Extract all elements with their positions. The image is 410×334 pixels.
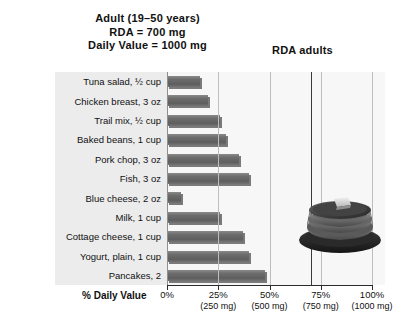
pancakes-photo-svg — [296, 186, 384, 256]
rda-adults-label: RDA adults — [272, 44, 333, 56]
category-label: Yogurt, plain, 1 cup — [55, 247, 161, 266]
category-label: Fish, 3 oz — [55, 169, 161, 188]
pancakes-photo — [296, 186, 384, 256]
bar — [167, 270, 265, 281]
bar — [167, 231, 243, 242]
bar — [167, 95, 208, 106]
category-label: Trail mix, ½ cup — [55, 111, 161, 130]
x-tick-mg: (1000 mg) — [342, 301, 402, 313]
title-line-age: Adult (19–50 years) — [40, 12, 255, 26]
category-label: Chicken breast, 3 oz — [55, 91, 161, 110]
x-tick-percent: 0% — [160, 289, 174, 300]
category-label: Baked beans, 1 cup — [55, 130, 161, 149]
table-row: Trail mix, ½ cup — [55, 111, 385, 130]
x-tick-label-100: 100%(1000 mg) — [342, 289, 402, 312]
category-label: Pork chop, 3 oz — [55, 150, 161, 169]
table-row: Baked beans, 1 cup — [55, 130, 385, 149]
x-tick-percent: 50% — [260, 289, 279, 300]
category-label: Milk, 1 cup — [55, 208, 161, 227]
gridline-50 — [270, 72, 271, 285]
bar — [167, 154, 239, 165]
x-tick-percent: 25% — [209, 289, 228, 300]
bar — [167, 192, 181, 203]
chart-title: Adult (19–50 years) RDA = 700 mg Daily V… — [40, 12, 255, 53]
title-line-rda: RDA = 700 mg — [40, 26, 255, 40]
category-label: Cottage cheese, 1 cup — [55, 227, 161, 246]
x-tick-percent: 75% — [311, 289, 330, 300]
category-label: Blue cheese, 2 oz — [55, 188, 161, 207]
table-row: Pancakes, 2 — [55, 266, 385, 285]
table-row: Chicken breast, 3 oz — [55, 91, 385, 110]
bar — [167, 251, 249, 262]
category-label: Tuna salad, ½ cup — [55, 72, 161, 91]
bar — [167, 76, 200, 87]
phosphorus-daily-value-chart: Adult (19–50 years) RDA = 700 mg Daily V… — [0, 0, 410, 334]
gridline-25 — [218, 72, 219, 285]
bar — [167, 173, 249, 184]
title-line-daily-value: Daily Value = 1000 mg — [40, 39, 255, 53]
category-label: Pancakes, 2 — [55, 266, 161, 285]
bar — [167, 115, 220, 126]
table-row: Pork chop, 3 oz — [55, 150, 385, 169]
table-row: Tuna salad, ½ cup — [55, 72, 385, 91]
gridline-0 — [167, 72, 168, 285]
x-tick-percent: 100% — [360, 289, 384, 300]
bar — [167, 212, 220, 223]
